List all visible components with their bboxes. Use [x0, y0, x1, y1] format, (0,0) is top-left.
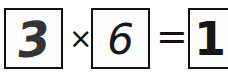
operand-a-digit: 3: [4, 8, 63, 69]
equals-sign: =: [156, 14, 188, 58]
multiply-sign: ×: [69, 22, 92, 55]
operand-b-digit: 6: [93, 14, 148, 63]
operand-b-box: 6: [91, 8, 150, 69]
operand-a-box: 3: [4, 8, 63, 69]
equation-canvas: 3 × 6 = 18: [0, 0, 228, 77]
result-digits: 18: [190, 12, 228, 66]
result-box: 18: [188, 8, 228, 69]
